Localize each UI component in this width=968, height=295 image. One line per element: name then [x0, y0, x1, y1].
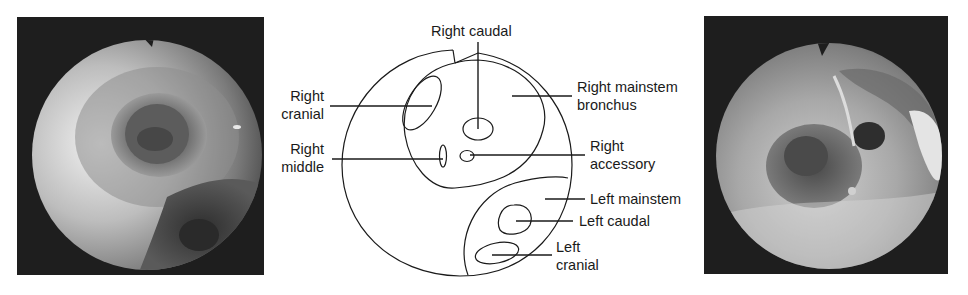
- endoscopic-photo-right: [704, 16, 948, 274]
- endoscope-view-left-image: [17, 17, 264, 275]
- label-right-accessory: Right accessory: [590, 137, 655, 173]
- label-right-cranial: Right cranial: [260, 87, 324, 123]
- label-right-middle: Right middle: [260, 140, 324, 176]
- label-left-caudal: Left caudal: [579, 212, 650, 230]
- label-left-cranial: Left cranial: [556, 238, 599, 274]
- right-middle-oval: [440, 145, 447, 167]
- label-right-mainstem-bronchus: Right mainstem bronchus: [577, 78, 678, 114]
- label-right-caudal: Right caudal: [431, 22, 512, 40]
- outer-airway-outline: [342, 50, 572, 276]
- bronchial-schematic-diagram: Right caudal Right cranial Right middle …: [260, 0, 710, 295]
- endoscope-view-right-image: [704, 16, 948, 274]
- left-caudal-oval: [499, 205, 532, 234]
- left-mainstem-outline: [464, 177, 568, 275]
- endoscopic-photo-left: [17, 17, 264, 275]
- left-cranial-oval: [473, 239, 520, 268]
- label-left-mainstem: Left mainstem: [590, 190, 681, 208]
- right-accessory-oval: [460, 151, 474, 162]
